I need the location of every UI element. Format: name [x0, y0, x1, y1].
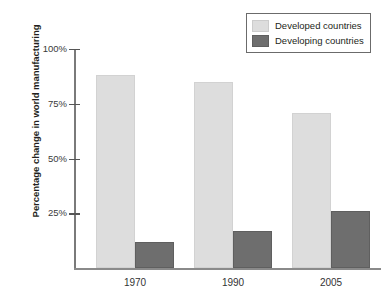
bar-developed-1970: [96, 75, 135, 268]
bar-chart: Percentage change in world manufacturing…: [0, 0, 392, 303]
y-axis-title: Percentage change in world manufacturing: [28, 6, 44, 236]
x-axis-line: [74, 268, 381, 270]
y-tick-label-25: 25%: [48, 209, 67, 219]
plot-area: 100% 75% 50% 25% 1970 1990 2005: [74, 44, 381, 269]
legend-item-developing: Developing countries: [252, 33, 364, 48]
x-axis-label-2005: 2005: [320, 277, 342, 288]
legend-label-developed: Developed countries: [275, 21, 362, 31]
bar-developed-1990: [194, 82, 233, 268]
legend-swatch-icon-developed: [252, 20, 269, 32]
y-tick-mark-25: [69, 213, 80, 214]
bar-developed-2005: [292, 113, 331, 268]
y-tick-label-100: 100%: [43, 44, 67, 54]
y-tick-mark-75: [69, 104, 80, 105]
legend-label-developing: Developing countries: [275, 36, 364, 46]
chart-legend: Developed countries Developing countries: [246, 13, 371, 53]
legend-swatch-icon-developing: [252, 35, 269, 47]
bar-developing-1990: [233, 231, 272, 268]
legend-item-developed: Developed countries: [252, 18, 364, 33]
y-tick-mark-50: [69, 159, 80, 160]
bar-developing-2005: [331, 211, 370, 268]
x-axis-label-1990: 1990: [222, 277, 244, 288]
x-axis-label-1970: 1970: [124, 277, 146, 288]
y-tick-mark-100: [69, 49, 80, 50]
y-tick-label-75: 75%: [48, 99, 67, 109]
bar-developing-1970: [135, 242, 174, 268]
y-tick-label-50: 50%: [48, 154, 67, 164]
